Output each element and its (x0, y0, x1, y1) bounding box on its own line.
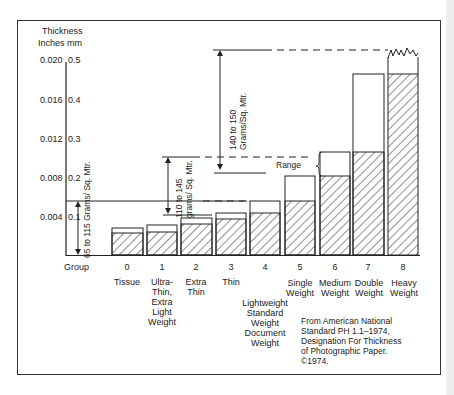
ytick-in-4: 0.004 (40, 212, 63, 222)
bar-group-5 (285, 176, 315, 255)
ytick-in-3: 0.008 (40, 173, 63, 183)
y-axis-units: Inches mm (38, 38, 82, 48)
group-name-4: LightweightStandardWeightDocumentWeight (240, 298, 290, 348)
ytick-in-1: 0.016 (40, 95, 63, 105)
ytick-in-2: 0.012 (40, 134, 63, 144)
ytick-in-0: 0.020 (40, 55, 63, 65)
page-edge (446, 0, 454, 395)
group-num-7: 7 (358, 262, 378, 272)
annotation-65-115: 65 to 115 Grams/ Sq. Mtr. (82, 161, 92, 258)
ytick-mm-4: 0.1 (68, 212, 81, 222)
bar-group-6 (320, 152, 350, 255)
source-note: From American National Standard PH 1.1–1… (301, 316, 401, 366)
range-label: Range (276, 160, 301, 170)
group-name-7: DoubleWeight (349, 278, 389, 298)
group-num-3: 3 (221, 262, 241, 272)
annotation-140-150: 140 to 150 Grams/Sq. Mtr. (228, 70, 248, 150)
group-name-5: SingleWeight (280, 278, 320, 298)
ytick-mm-1: 0.4 (68, 95, 81, 105)
group-name-8: HeavyWeight (384, 278, 424, 298)
group-name-3: Thin (211, 277, 251, 287)
group-num-2: 2 (186, 262, 206, 272)
x-axis-title: Group (64, 262, 89, 272)
ytick-mm-2: 0.3 (68, 134, 81, 144)
bar-group-4 (250, 201, 280, 255)
ytick-mm-0: 0.5 (68, 55, 81, 65)
group-num-4: 4 (255, 262, 275, 272)
group-num-6: 6 (325, 262, 345, 272)
group-name-2: ExtraThin (176, 277, 216, 297)
group-name-0: Tissue (107, 277, 147, 287)
bar-group-0 (112, 228, 143, 255)
annotation-110-145: 110 to 145 grams/ Sq. Mtr. (174, 158, 194, 218)
bar-group-7 (353, 74, 384, 255)
bar-group-3 (216, 213, 246, 255)
bar-group-8 (388, 48, 418, 255)
bar-group-1 (147, 225, 177, 255)
group-num-8: 8 (393, 262, 413, 272)
bar-group-2 (181, 218, 212, 255)
group-num-1: 1 (152, 262, 172, 272)
group-num-5: 5 (290, 262, 310, 272)
y-axis-title: Thickness (42, 26, 83, 36)
group-num-0: 0 (117, 262, 137, 272)
ytick-mm-3: 0.2 (68, 173, 81, 183)
